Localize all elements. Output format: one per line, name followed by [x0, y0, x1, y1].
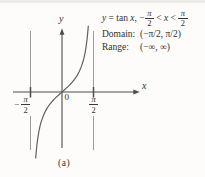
domain-value: (−π/2, π/2) — [140, 29, 181, 39]
range-row: Range: (−∞, ∞) — [102, 42, 170, 52]
range-value: (−∞, ∞) — [140, 42, 170, 52]
origin-label: 0 — [65, 93, 70, 102]
x-axis-label: x — [142, 81, 146, 91]
y-axis-label: y — [59, 14, 63, 24]
figure-tan-graph: y = tan x, −π2 < x < π2 Domain: (−π/2, π… — [0, 0, 205, 177]
fraction-pi-over-2: π2 — [89, 95, 98, 114]
tick-label-pi-over-2: π2 — [89, 95, 98, 114]
equation-less-than-2: < — [168, 13, 178, 23]
subfigure-caption: (a) — [58, 158, 70, 168]
tick-label-neg-pi-over-2: − π2 — [14, 95, 30, 114]
range-label: Range: — [102, 42, 140, 52]
equation-equals: = — [106, 13, 116, 23]
fraction-pi-over-2: π2 — [145, 9, 154, 28]
equation-fn-tan: tan — [116, 13, 128, 23]
equation-less-than: < — [154, 13, 164, 23]
fraction-pi-over-2: π2 — [178, 9, 187, 28]
equation-var-x: x — [128, 13, 135, 23]
equation: y = tan x, −π2 < x < π2 — [102, 7, 188, 29]
domain-row: Domain: (−π/2, π/2) — [102, 29, 181, 39]
fraction-pi-over-2: π2 — [21, 95, 30, 114]
domain-label: Domain: — [102, 29, 140, 39]
minus-sign: − — [14, 100, 19, 109]
